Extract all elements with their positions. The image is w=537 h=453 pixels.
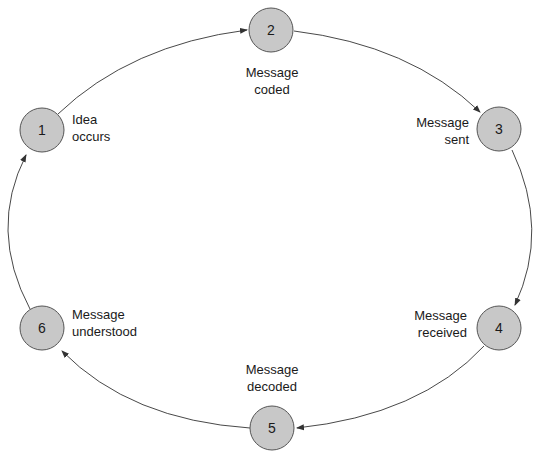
node-number: 6 — [38, 320, 46, 336]
node-label-message-decoded: Message decoded — [246, 361, 299, 395]
label-line: Message — [416, 114, 469, 131]
node-number: 1 — [38, 122, 46, 138]
label-line: Message — [72, 306, 137, 323]
node-label-message-sent: Message sent — [416, 114, 469, 148]
node-2: 2 — [249, 8, 293, 52]
arrow-1-to-2 — [58, 30, 247, 114]
label-line: sent — [416, 131, 469, 148]
label-line: received — [414, 324, 467, 341]
arrow-4-to-5 — [297, 346, 484, 428]
node-1: 1 — [20, 108, 64, 152]
label-line: understood — [72, 323, 137, 340]
node-label-message-received: Message received — [414, 307, 467, 341]
arrow-3-to-4 — [512, 150, 532, 305]
node-label-message-coded: Message coded — [246, 64, 299, 98]
label-line: Message — [246, 361, 299, 378]
node-label-message-understood: Message understood — [72, 306, 137, 340]
label-line: occurs — [72, 128, 110, 145]
node-number: 5 — [268, 420, 276, 436]
node-number: 2 — [267, 22, 275, 38]
arrow-6-to-1 — [8, 155, 30, 309]
label-line: coded — [246, 81, 299, 98]
node-6: 6 — [20, 306, 64, 350]
node-3: 3 — [477, 107, 521, 151]
label-line: decoded — [246, 378, 299, 395]
node-4: 4 — [477, 306, 521, 350]
node-number: 3 — [495, 121, 503, 137]
arrow-2-to-3 — [294, 31, 480, 112]
label-line: Idea — [72, 111, 110, 128]
label-line: Message — [246, 64, 299, 81]
node-5: 5 — [250, 406, 294, 450]
node-number: 4 — [495, 320, 503, 336]
arrow-5-to-6 — [62, 351, 250, 428]
label-line: Message — [414, 307, 467, 324]
node-label-idea-occurs: Idea occurs — [72, 111, 110, 145]
